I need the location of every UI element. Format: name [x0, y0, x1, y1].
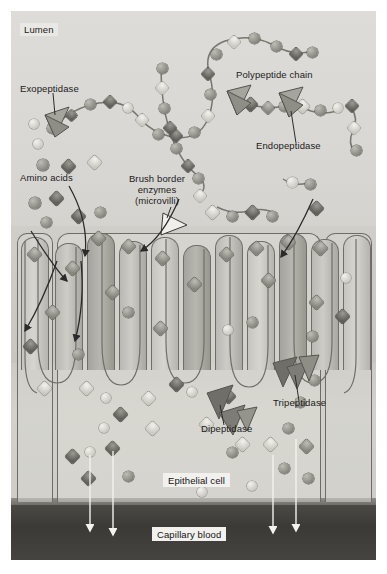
amino-acid-sphere — [29, 119, 39, 129]
amino-acid-sphere — [41, 217, 52, 228]
amino-acid-sphere — [99, 423, 109, 433]
amino-acid-sphere — [315, 105, 326, 116]
amino-acid-sphere — [159, 103, 170, 114]
amino-acid-sphere — [333, 103, 343, 113]
amino-acid-sphere — [197, 487, 207, 497]
microvillus — [119, 241, 147, 370]
amino-acid-sphere — [305, 179, 316, 190]
label-amino-acids: Amino acids — [20, 172, 73, 183]
amino-acid-sphere — [205, 89, 216, 100]
microvillus — [183, 245, 211, 370]
amino-acid-sphere — [189, 127, 200, 138]
amino-acid-sphere — [95, 207, 106, 218]
amino-acid-sphere — [171, 143, 182, 154]
label-polypeptide-chain: Polypeptide chain — [236, 69, 313, 80]
amino-acid-sphere — [287, 177, 298, 188]
amino-acid-sphere — [85, 99, 96, 110]
amino-acid-sphere — [73, 349, 84, 360]
amino-acid-sphere — [249, 33, 260, 44]
amino-acid-sphere — [303, 473, 314, 484]
microvillus — [279, 233, 307, 370]
amino-acid-sphere — [29, 197, 41, 209]
amino-acid-sphere — [157, 63, 168, 74]
brush-border-line-3: (microvilli) — [135, 195, 179, 206]
amino-acid-sphere — [187, 387, 197, 397]
amino-acid-sphere — [153, 129, 164, 140]
amino-acid-sphere — [307, 47, 318, 58]
amino-acid-sphere — [267, 211, 278, 222]
amino-acid-sphere — [123, 307, 134, 318]
amino-acid-sphere — [283, 423, 294, 434]
amino-acid-sphere — [227, 447, 238, 458]
label-lumen: Lumen — [20, 23, 58, 36]
microvillus — [87, 233, 115, 370]
amino-acid-sphere — [227, 211, 238, 222]
illustration-plate: Lumen Exopeptidase Amino acids Brush bor… — [11, 11, 376, 560]
amino-acid-sphere — [47, 123, 58, 134]
microvillus — [247, 241, 275, 370]
brush-border-line-2: enzymes — [138, 184, 177, 195]
brush-border-line-1: Brush border — [129, 173, 185, 184]
amino-acid-sphere — [85, 447, 95, 457]
amino-acid-sphere — [247, 481, 257, 491]
label-brush-border-enzymes: Brush border enzymes (microvilli) — [111, 173, 203, 206]
amino-acid-sphere — [101, 393, 111, 403]
amino-acid-sphere — [211, 49, 222, 60]
amino-acid-sphere — [271, 41, 282, 52]
label-dipeptidase: Dipeptidase — [201, 423, 252, 434]
amino-acid-sphere — [33, 139, 43, 149]
amino-acid-sphere — [223, 325, 233, 335]
amino-acid-sphere — [307, 331, 318, 342]
label-endopeptidase: Endopeptidase — [256, 140, 321, 151]
amino-acid-sphere — [351, 145, 362, 156]
figure-root: Lumen Exopeptidase Amino acids Brush bor… — [0, 0, 387, 574]
label-epithelial-cell: Epithelial cell — [163, 473, 230, 487]
label-tripeptidase: Tripeptidase — [273, 397, 326, 408]
amino-acid-sphere — [37, 159, 49, 171]
amino-acid-sphere — [279, 101, 290, 112]
amino-acid-sphere — [341, 273, 351, 283]
label-exopeptidase: Exopeptidase — [20, 83, 79, 94]
amino-acid-sphere — [123, 471, 134, 482]
microvillus — [343, 235, 371, 370]
amino-acid-sphere — [309, 375, 320, 386]
amino-acid-sphere — [123, 103, 133, 113]
amino-acid-sphere — [247, 317, 258, 328]
label-capillary-blood: Capillary blood — [152, 527, 226, 541]
amino-acid-sphere — [279, 463, 290, 474]
